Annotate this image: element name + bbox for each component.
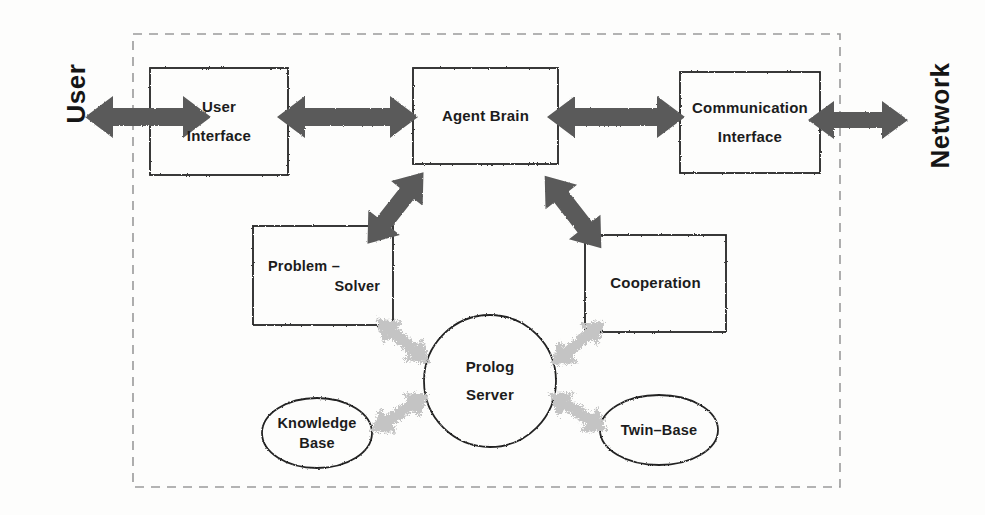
- box-agent-brain[interactable]: [413, 68, 558, 164]
- box-cooperation[interactable]: [585, 235, 726, 332]
- external-actor-user: User: [61, 54, 92, 134]
- ellipse-twin-base[interactable]: [600, 395, 718, 465]
- external-actor-network: Network: [925, 48, 956, 184]
- arrow-agent-brain-to-problem-solver: [352, 160, 440, 256]
- arrow-agent-brain-to-cooperation: [529, 163, 617, 260]
- box-communication-interface[interactable]: [680, 72, 820, 173]
- agent-boundary-frame: [133, 34, 840, 487]
- arrow-communication-interface-to-network: [808, 101, 908, 139]
- arrow-user-interface-to-agent-brain: [277, 96, 418, 138]
- circle-prolog-server[interactable]: [424, 315, 556, 447]
- external-actor-network-label: Network: [925, 62, 955, 168]
- diagram-vector-layer: [0, 0, 985, 515]
- arrow-problem-solver-to-prolog-server: [367, 307, 440, 375]
- arrow-cooperation-to-prolog-server: [542, 309, 615, 377]
- arrow-knowledge-base-to-prolog-server: [362, 381, 437, 444]
- arrow-user-to-user-interface: [85, 96, 211, 138]
- external-actor-user-label: User: [61, 64, 91, 124]
- arrow-agent-brain-to-communication-interface: [547, 96, 685, 138]
- diagram-canvas: User Network User Interface Agent Brain …: [0, 0, 985, 515]
- arrow-twin-base-to-prolog-server: [540, 380, 615, 443]
- ellipse-knowledge-base[interactable]: [262, 398, 372, 468]
